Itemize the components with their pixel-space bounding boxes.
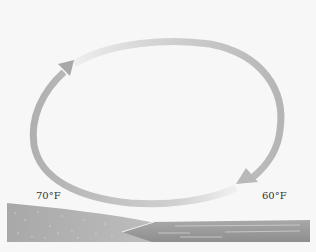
circulation-arrow-lower: [33, 60, 236, 204]
circulation-arrow-upper: [74, 41, 281, 184]
land-temperature-label: 70°F: [36, 190, 61, 201]
sea-surface: [122, 220, 310, 242]
sea-breeze-diagram: [0, 0, 316, 252]
land-surface: [7, 203, 152, 242]
sea-temperature-label: 60°F: [262, 190, 287, 201]
